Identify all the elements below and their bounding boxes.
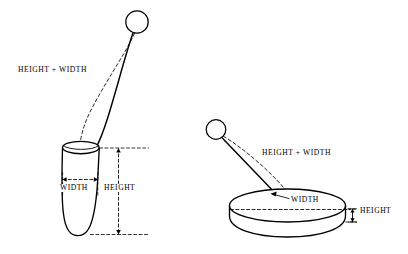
figure-container: HEIGHT + WIDTH WIDTH HEIGHT HEIGHT + WID… — [0, 0, 408, 254]
right-height-arrowhead-bottom — [350, 218, 354, 222]
left-width-label: WIDTH — [59, 184, 89, 192]
left-stem-dashed-arc — [80, 33, 135, 148]
left-height-plus-width-label: HEIGHT + WIDTH — [17, 66, 88, 74]
left-ball-icon — [126, 11, 148, 33]
right-panel-group — [206, 120, 356, 237]
left-height-arrowhead-top — [116, 148, 121, 152]
right-ball-icon — [206, 120, 226, 140]
right-height-arrowhead-top — [350, 209, 354, 213]
right-width-label: WIDTH — [290, 196, 320, 204]
left-panel-group — [62, 11, 149, 236]
right-height-plus-width-label: HEIGHT + WIDTH — [261, 149, 332, 157]
diagram-canvas — [0, 0, 408, 254]
right-height-label: HEIGHT — [359, 207, 392, 215]
left-vase-body — [62, 149, 99, 236]
left-height-label: HEIGHT — [103, 184, 136, 192]
left-height-arrowhead-bottom — [116, 230, 121, 234]
right-dish-rim — [230, 189, 346, 222]
